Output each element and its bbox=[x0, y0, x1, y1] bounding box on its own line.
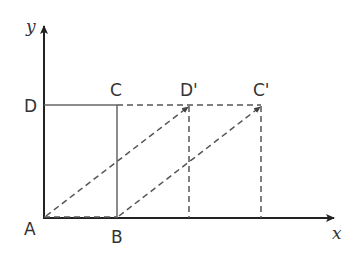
shear-transformation-diagram: y x D C D' C' A B bbox=[0, 0, 355, 258]
x-axis-label: x bbox=[332, 223, 342, 243]
point-label-A: A bbox=[24, 219, 36, 239]
point-label-C-prime: C' bbox=[253, 80, 270, 100]
point-label-D-prime: D' bbox=[180, 80, 198, 100]
point-label-C: C bbox=[110, 80, 122, 100]
diagram-canvas: y x D C D' C' A B bbox=[0, 0, 355, 258]
point-label-B: B bbox=[111, 227, 123, 247]
y-axis-label: y bbox=[25, 16, 36, 36]
point-label-D: D bbox=[24, 96, 37, 116]
